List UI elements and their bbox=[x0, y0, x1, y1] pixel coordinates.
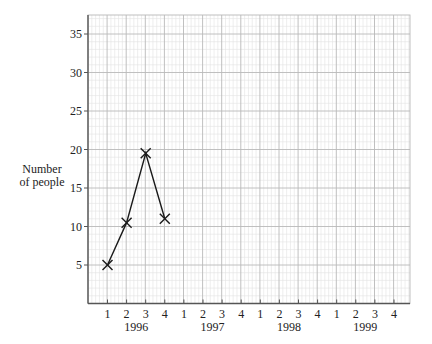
x-axis-ticks: 12341234123412341996199719981999 bbox=[105, 300, 398, 335]
x-year-label: 1997 bbox=[201, 320, 225, 334]
x-tick-label: 1 bbox=[257, 307, 263, 321]
y-tick-label: 30 bbox=[70, 66, 82, 80]
x-tick-label: 1 bbox=[334, 307, 340, 321]
x-tick-label: 3 bbox=[143, 307, 149, 321]
x-tick-label: 4 bbox=[315, 307, 321, 321]
y-tick-label: 10 bbox=[70, 220, 82, 234]
x-tick-label: 2 bbox=[200, 307, 206, 321]
x-tick-label: 3 bbox=[296, 307, 302, 321]
x-tick-label: 2 bbox=[353, 307, 359, 321]
x-tick-label: 2 bbox=[276, 307, 282, 321]
x-tick-label: 4 bbox=[391, 307, 397, 321]
data-series bbox=[103, 148, 170, 270]
y-axis-ticks: 5101520253035 bbox=[70, 27, 88, 272]
x-tick-label: 3 bbox=[219, 307, 225, 321]
y-tick-label: 5 bbox=[76, 258, 82, 272]
x-tick-label: 1 bbox=[181, 307, 187, 321]
y-tick-label: 35 bbox=[70, 27, 82, 41]
x-year-label: 1998 bbox=[277, 320, 301, 334]
major-grid bbox=[88, 15, 410, 304]
plot-border bbox=[88, 15, 410, 304]
x-tick-label: 3 bbox=[372, 307, 378, 321]
x-tick-label: 1 bbox=[105, 307, 111, 321]
y-tick-label: 20 bbox=[70, 143, 82, 157]
y-tick-label: 25 bbox=[70, 104, 82, 118]
x-tick-label: 2 bbox=[124, 307, 130, 321]
series-line bbox=[108, 153, 165, 265]
x-year-label: 1996 bbox=[124, 320, 148, 334]
y-axis-label: Number of people bbox=[8, 163, 76, 189]
minor-grid bbox=[88, 15, 410, 304]
x-tick-label: 4 bbox=[162, 307, 168, 321]
axes bbox=[88, 15, 410, 304]
x-year-label: 1999 bbox=[353, 320, 377, 334]
y-axis-label-line2: of people bbox=[8, 176, 76, 189]
x-tick-label: 4 bbox=[238, 307, 244, 321]
